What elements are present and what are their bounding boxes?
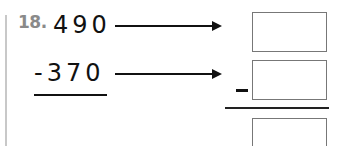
arrow-right-icon (115, 73, 220, 75)
problem-underline (34, 94, 107, 96)
minuend-answer-box[interactable] (252, 12, 327, 52)
margin-line (5, 15, 7, 146)
arrow-right-icon (115, 25, 220, 27)
problem-number: 18. (18, 12, 47, 32)
subtrahend-answer-box[interactable] (252, 60, 327, 100)
subtrahend-number: -370 (34, 61, 104, 85)
minuend-number: 490 (53, 13, 111, 37)
minus-sign-icon (236, 89, 248, 92)
difference-answer-box[interactable] (252, 118, 327, 146)
result-rule (225, 107, 329, 109)
